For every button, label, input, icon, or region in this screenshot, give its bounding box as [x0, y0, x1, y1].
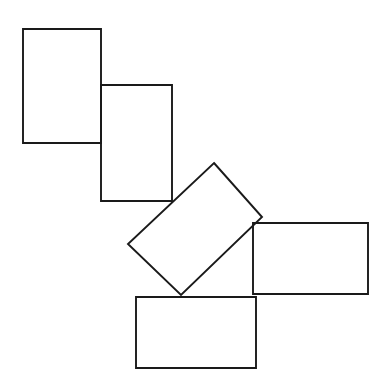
drawing-background: [0, 0, 389, 391]
rectangles-drawing: [0, 0, 389, 391]
figure-canvas: [0, 0, 389, 391]
